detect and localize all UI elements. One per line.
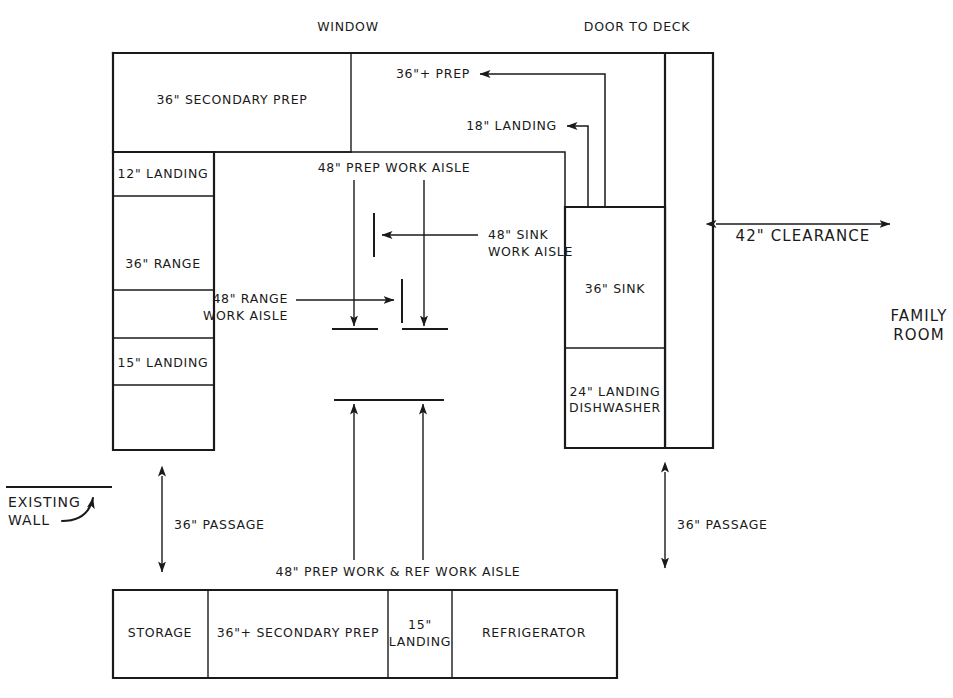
right-wall-column (665, 53, 713, 448)
cabinet-label-storage: STORAGE (128, 625, 192, 640)
dimension-range-work-aisle: 48" RANGE WORK AISLE (203, 279, 402, 323)
cabinet-label-refrigerator: REFRIGERATOR (482, 625, 586, 640)
cabinet-label-landing-15-bottom-line2: LANDING (389, 634, 451, 649)
label-window: WINDOW (317, 19, 378, 34)
dimension-label-prep-work-aisle: 48" PREP WORK AISLE (318, 160, 471, 175)
label-existing-wall-line2: WALL (8, 512, 50, 528)
dimension-label-clearance: 42" CLEARANCE (736, 227, 871, 245)
floorplan-canvas: WINDOW DOOR TO DECK 36" SECONDARY PREP (0, 0, 953, 698)
left-cabinet-run: 12" LANDING 36" RANGE 15" LANDING (113, 152, 214, 450)
bottom-cabinet-run: STORAGE 36"+ SECONDARY PREP 15" LANDING … (113, 590, 617, 678)
kitchen-floorplan-diagram: WINDOW DOOR TO DECK 36" SECONDARY PREP (0, 0, 953, 698)
top-cabinet-run: 36" SECONDARY PREP (113, 53, 665, 152)
dimension-passage-right: 36" PASSAGE (665, 472, 768, 568)
dimension-label-passage-left: 36" PASSAGE (174, 517, 265, 532)
label-existing-wall-line1: EXISTING (8, 494, 81, 510)
dimension-label-range-work-aisle-line2: WORK AISLE (203, 308, 288, 323)
dimension-clearance: 42" CLEARANCE (716, 224, 890, 245)
cabinet-label-landing-dishwasher-line2: DISHWASHER (569, 400, 661, 415)
dimension-label-prep-ref-work-aisle: 48" PREP WORK & REF WORK AISLE (276, 564, 521, 579)
cabinet-label-secondary-prep-bottom: 36"+ SECONDARY PREP (217, 625, 379, 640)
cabinet-label-landing-12: 12" LANDING (118, 166, 209, 181)
label-family-room: FAMILY ROOM (890, 307, 947, 344)
cabinet-label-secondary-prep: 36" SECONDARY PREP (156, 92, 307, 107)
dimension-label-passage-right: 36" PASSAGE (677, 517, 768, 532)
dimension-sink-work-aisle: 48" SINK WORK AISLE (374, 213, 573, 259)
cabinet-label-landing-15-bottom-line1: 15" (408, 617, 432, 632)
cabinet-label-range-36: 36" RANGE (125, 256, 201, 271)
cabinet-label-sink-36: 36" SINK (585, 281, 646, 296)
cabinet-label-landing-dishwasher-line1: 24" LANDING (570, 384, 661, 399)
annotation-existing-wall: EXISTING WALL (6, 487, 112, 528)
dimension-label-prep-36-plus: 36"+ PREP (396, 66, 470, 81)
cabinet-label-landing-15: 15" LANDING (118, 355, 209, 370)
dimension-label-sink-work-aisle-line1: 48" SINK (488, 227, 549, 242)
sink-cabinet-run: 36" SINK 24" LANDING DISHWASHER (565, 207, 665, 448)
label-family-room-line1: FAMILY (890, 307, 947, 325)
dimension-label-sink-work-aisle-line2: WORK AISLE (488, 244, 573, 259)
dimension-passage-left: 36" PASSAGE (162, 476, 265, 572)
label-door-to-deck: DOOR TO DECK (584, 19, 690, 34)
dimension-prep-work-aisle: 48" PREP WORK AISLE (318, 160, 471, 329)
dimension-label-landing-18: 18" LANDING (466, 118, 557, 133)
dimension-label-range-work-aisle-line1: 48" RANGE (212, 291, 288, 306)
dimension-prep-ref-work-aisle: 48" PREP WORK & REF WORK AISLE (276, 400, 521, 579)
label-family-room-line2: ROOM (893, 326, 944, 344)
